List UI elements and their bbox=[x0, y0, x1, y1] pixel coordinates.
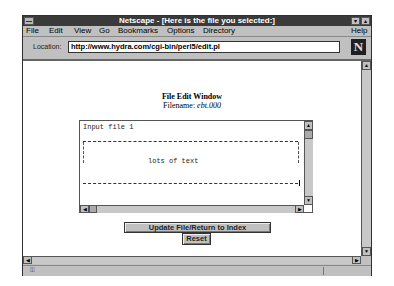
menu-edit[interactable]: Edit bbox=[49, 26, 63, 36]
text-cursor bbox=[299, 180, 300, 186]
menu-view[interactable]: View bbox=[74, 26, 91, 36]
page-vertical-scrollbar[interactable]: ▲ ▼ bbox=[361, 61, 371, 256]
page-content: File Edit Window Filename: ebt.000 Input… bbox=[23, 61, 361, 256]
menu-help[interactable]: Help bbox=[351, 26, 367, 36]
location-label: Location: bbox=[33, 43, 61, 50]
location-input[interactable]: http://www.hydra.com/cgi-bin/perl5/edit.… bbox=[68, 41, 340, 53]
page-scroll-left-button[interactable]: ◀ bbox=[23, 256, 32, 264]
security-key-icon: ⚿ bbox=[30, 267, 46, 274]
location-bar: Location: http://www.hydra.com/cgi-bin/p… bbox=[23, 37, 371, 61]
reset-button[interactable]: Reset bbox=[182, 233, 211, 245]
textarea-scroll-left-button[interactable]: ◀ bbox=[80, 205, 89, 213]
scrollbar-corner bbox=[361, 256, 371, 264]
textarea-bottom-border bbox=[83, 183, 298, 184]
menu-directory[interactable]: Directory bbox=[203, 26, 235, 36]
filename-value: ebt.000 bbox=[197, 101, 221, 110]
textarea-scroll-up-button[interactable]: ▲ bbox=[304, 121, 313, 130]
page-scroll-right-button[interactable]: ▶ bbox=[352, 256, 361, 264]
menu-file[interactable]: File bbox=[26, 26, 39, 36]
textarea-horizontal-scrollbar[interactable]: ◀ ▶ bbox=[80, 205, 304, 213]
maximize-button[interactable]: ▴ bbox=[361, 17, 370, 25]
filename-line: Filename: ebt.000 bbox=[23, 101, 361, 110]
status-divider bbox=[323, 267, 324, 275]
textarea-vertical-scrollbar[interactable]: ▲ ▼ bbox=[304, 121, 313, 205]
minimize-button[interactable]: ▾ bbox=[351, 17, 360, 25]
netscape-logo-icon[interactable]: N bbox=[351, 39, 366, 55]
update-file-button[interactable]: Update File/Return to Index bbox=[124, 222, 271, 233]
file-textarea[interactable]: Input file 1 lots of text ▲ ▼ ◀ ▶ bbox=[79, 120, 313, 213]
page-heading: File Edit Window bbox=[23, 92, 361, 101]
page-scroll-down-button[interactable]: ▼ bbox=[362, 247, 371, 256]
textarea-scroll-thumb[interactable] bbox=[304, 130, 313, 139]
textarea-left-border bbox=[83, 142, 84, 163]
menu-bar: File Edit View Go Bookmarks Options Dire… bbox=[23, 26, 371, 37]
textarea-top-border bbox=[83, 141, 298, 142]
status-bar: ⚿ bbox=[23, 265, 371, 276]
browser-window: Netscape - [Here is the file you selecte… bbox=[22, 15, 372, 276]
page-scroll-up-button[interactable]: ▲ bbox=[362, 61, 371, 70]
menu-options[interactable]: Options bbox=[167, 26, 195, 36]
title-bar[interactable]: Netscape - [Here is the file you selecte… bbox=[23, 16, 371, 26]
menu-bookmarks[interactable]: Bookmarks bbox=[118, 26, 158, 36]
textarea-scroll-down-button[interactable]: ▼ bbox=[304, 196, 313, 205]
window-title: Netscape - [Here is the file you selecte… bbox=[23, 16, 371, 26]
textarea-scroll-right-button[interactable]: ▶ bbox=[295, 205, 304, 213]
textarea-hscroll-thumb[interactable] bbox=[89, 205, 97, 213]
menu-go[interactable]: Go bbox=[99, 26, 110, 36]
filename-label: Filename: bbox=[163, 101, 195, 110]
textarea-body-text: lots of text bbox=[148, 157, 198, 165]
textarea-right-border bbox=[298, 142, 299, 163]
textarea-first-line: Input file 1 bbox=[83, 123, 133, 131]
page-horizontal-scrollbar[interactable]: ◀ ▶ bbox=[23, 256, 361, 264]
